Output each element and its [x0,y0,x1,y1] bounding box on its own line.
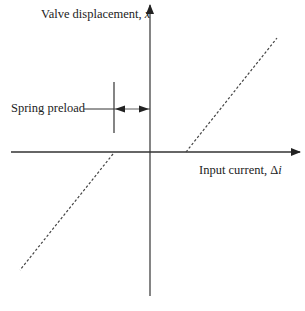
y-axis-label: Valve displacement, x [41,7,150,22]
characteristic-positive [186,38,277,152]
diagram-graphics [0,0,305,311]
preload-arrow-right [139,106,149,113]
characteristic-negative [20,154,113,270]
spring-preload-label: Spring preload [11,101,85,116]
preload-arrow-left [115,106,125,113]
x-axis-label: Input current, Δi [199,163,282,178]
diagram-canvas: Valve displacement, x Spring preload Inp… [0,0,305,311]
